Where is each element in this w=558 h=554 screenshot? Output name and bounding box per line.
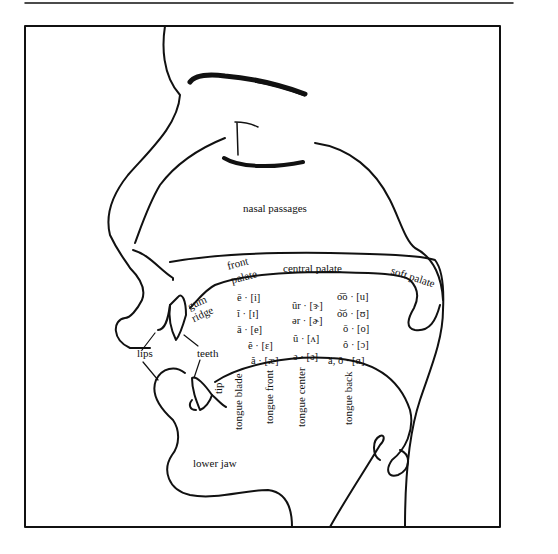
label-tongue-center: tongue center (296, 367, 307, 427)
lips-leader-lower (143, 362, 158, 380)
vowel-central-2: ər · [ɚ] (292, 316, 322, 327)
vowel-back-2: o͝o · [ʊ] (337, 309, 369, 320)
vowel-front-4: ĕ · [ɛ] (248, 341, 273, 352)
vowel-central-4: ə · [ə] (293, 352, 318, 363)
eyebrow (190, 75, 305, 96)
face-profile (108, 26, 180, 348)
teeth-leader-upper (184, 335, 198, 346)
vowel-back-5: ä, ŏ · [ɑ] (328, 356, 364, 367)
label-nasal-passages: nasal passages (243, 203, 307, 214)
vowel-front-3: ā · [e] (237, 325, 262, 336)
label-tongue-front: tongue front (264, 370, 275, 424)
vowel-back-4: ô · [ɔ] (343, 340, 369, 351)
vowel-front-1: ē · [i] (237, 293, 260, 304)
closed-eye (224, 122, 303, 166)
tongue-tip (212, 395, 226, 407)
lower-lip-inner (190, 400, 196, 410)
upper-lip-inner (158, 305, 170, 330)
teeth-leader-lower (194, 360, 200, 378)
tongue-outline (215, 357, 411, 475)
nostril (133, 250, 173, 280)
vowel-central-3: ŭ · [ʌ] (293, 334, 319, 345)
label-lips: lips (137, 348, 153, 359)
vowel-back-1: o͞o · [u] (337, 292, 369, 303)
lower-teeth (192, 377, 212, 410)
label-teeth: teeth (197, 348, 218, 359)
label-tip: tip (213, 382, 224, 394)
neck-front (330, 436, 384, 527)
vocal-tract-drawing (0, 0, 558, 554)
upper-teeth (169, 296, 186, 340)
vowel-back-3: ō · [o] (343, 324, 369, 335)
label-central-palate: central palate (283, 263, 342, 274)
label-lower-jaw: lower jaw (193, 458, 237, 469)
label-tongue-back: tongue back (343, 372, 354, 425)
vowel-central-1: ûr · [ɝ] (292, 301, 323, 312)
vowel-front-5: ă · [æ] (251, 356, 278, 367)
vowel-front-2: ĭ · [ɪ] (237, 309, 259, 320)
label-tongue-blade: tongue blade (233, 373, 244, 430)
